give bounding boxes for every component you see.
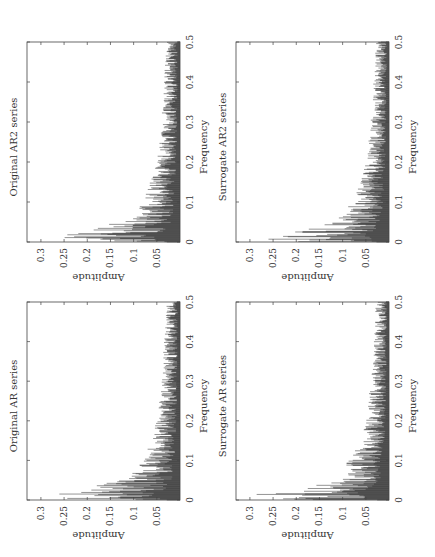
y-axis-label: Amplitude (281, 530, 334, 541)
y-tick-label: 0.15 (314, 248, 324, 268)
x-tick-label: 0.5 (394, 295, 404, 310)
panel-surr_ar2: 00.10.20.30.40.50.050.10.150.20.250.3Fre… (217, 35, 418, 283)
x-tick-label: 0.2 (394, 155, 404, 169)
y-tick-label: 0.2 (82, 248, 92, 262)
panel-orig_ar2: 00.10.20.30.40.50.050.10.150.20.250.3Fre… (8, 35, 209, 283)
spectrum-trace (65, 42, 180, 242)
spectrum-trace (59, 302, 180, 500)
y-tick-label: 0.3 (36, 506, 46, 521)
y-tick-label: 0.15 (105, 506, 115, 526)
y-tick-label: 0.05 (361, 248, 371, 268)
x-tick-label: 0.3 (185, 374, 195, 389)
x-tick-label: 0.5 (185, 295, 195, 310)
spectrum-trace (257, 302, 389, 500)
x-tick-label: 0.1 (394, 453, 404, 467)
panel-orig_ar: 00.10.20.30.40.50.050.10.150.20.250.3Fre… (8, 295, 209, 541)
x-axis-label: Frequency (198, 120, 209, 174)
x-tick-label: 0.3 (394, 374, 404, 389)
x-axis-label: Frequency (198, 379, 209, 433)
x-tick-label: 0.4 (185, 75, 195, 90)
x-tick-label: 0 (185, 497, 195, 503)
y-tick-label: 0.3 (245, 248, 255, 263)
spectrum-trace (268, 42, 389, 242)
x-axis-label: Frequency (407, 120, 418, 174)
y-tick-label: 0.25 (59, 506, 69, 526)
y-axis-label: Amplitude (72, 530, 125, 541)
panel-title: Original AR series (8, 360, 19, 453)
y-tick-label: 0.05 (152, 248, 162, 268)
y-tick-label: 0.3 (36, 248, 46, 263)
x-tick-label: 0.1 (394, 195, 404, 209)
y-tick-label: 0.05 (152, 506, 162, 526)
axes-box (27, 302, 180, 500)
x-tick-label: 0.4 (185, 334, 195, 349)
y-axis-label: Amplitude (72, 272, 125, 283)
y-tick-label: 0.25 (59, 248, 69, 268)
y-tick-label: 0.1 (338, 248, 348, 262)
x-tick-label: 0.3 (185, 115, 195, 130)
y-tick-label: 0.25 (268, 248, 278, 268)
x-tick-label: 0.1 (185, 195, 195, 209)
y-tick-label: 0.2 (291, 506, 301, 520)
y-tick-label: 0.1 (129, 248, 139, 262)
y-tick-label: 0.15 (314, 506, 324, 526)
x-tick-label: 0 (185, 239, 195, 245)
y-tick-label: 0.25 (268, 506, 278, 526)
x-tick-label: 0.4 (394, 334, 404, 349)
x-tick-label: 0.2 (185, 155, 195, 169)
figure: 00.10.20.30.40.50.050.10.150.20.250.3Fre… (0, 0, 435, 557)
x-tick-label: 0.5 (185, 35, 195, 50)
x-tick-label: 0.2 (185, 414, 195, 428)
panel-title: Original AR2 series (8, 98, 19, 197)
x-tick-label: 0.4 (394, 75, 404, 90)
y-tick-label: 0.1 (338, 506, 348, 520)
y-tick-label: 0.05 (361, 506, 371, 526)
x-tick-label: 0.1 (185, 453, 195, 467)
y-tick-label: 0.2 (291, 248, 301, 262)
y-tick-label: 0.15 (105, 248, 115, 268)
x-axis-label: Frequency (407, 379, 418, 433)
panel-title: Surrogate AR series (217, 355, 228, 457)
y-tick-label: 0.1 (129, 506, 139, 520)
panel-title: Surrogate AR2 series (217, 93, 228, 202)
x-tick-label: 0 (394, 497, 404, 503)
y-axis-label: Amplitude (281, 272, 334, 283)
x-tick-label: 0.3 (394, 115, 404, 130)
y-tick-label: 0.3 (245, 506, 255, 521)
x-tick-label: 0.5 (394, 35, 404, 50)
x-tick-label: 0.2 (394, 414, 404, 428)
y-tick-label: 0.2 (82, 506, 92, 520)
x-tick-label: 0 (394, 239, 404, 245)
axes-box (236, 302, 389, 500)
panel-surr_ar: 00.10.20.30.40.50.050.10.150.20.250.3Fre… (217, 295, 418, 541)
